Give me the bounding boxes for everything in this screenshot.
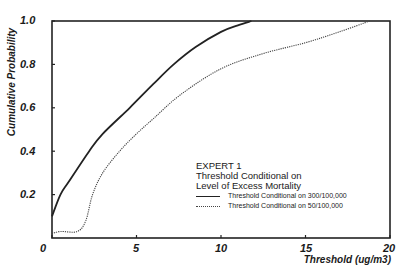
legend-label-dotted: Threshold Conditional on 50/100,000 (228, 201, 343, 211)
y-tick-0.2: 0.2 (20, 188, 35, 200)
legend: EXPERT 1 Threshold Conditional on Level … (196, 161, 347, 211)
dotted-line-swatch-icon (196, 206, 220, 207)
legend-label-solid: Threshold Conditional on 300/100,000 (228, 191, 347, 201)
y-tick-0.4: 0.4 (20, 145, 35, 157)
legend-title-3: Level of Excess Mortality (196, 181, 347, 191)
y-tick-1.0: 1.0 (20, 14, 35, 26)
x-tick-15: 15 (300, 242, 312, 254)
y-axis-label-text: Cumulative Probability (6, 28, 17, 136)
y-tick-0.8: 0.8 (20, 58, 35, 70)
legend-item-solid: Threshold Conditional on 300/100,000 (196, 191, 347, 201)
x-axis-label: Threshold (ug/m3) (304, 254, 391, 265)
x-tick-0: 0 (40, 242, 46, 254)
x-tick-5: 5 (133, 242, 139, 254)
x-tick-10: 10 (215, 242, 227, 254)
legend-item-dotted: Threshold Conditional on 50/100,000 (196, 201, 347, 211)
solid-line-swatch-icon (196, 196, 220, 197)
x-tick-20: 20 (383, 242, 395, 254)
y-axis-label: Cumulative Probability (4, 22, 18, 142)
chart-plot (0, 0, 411, 277)
y-tick-0.6: 0.6 (20, 101, 35, 113)
